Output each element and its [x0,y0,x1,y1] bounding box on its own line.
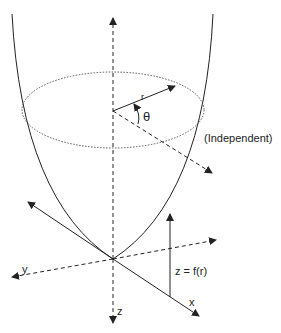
z-axis-label: z [117,306,123,317]
independent-label: (Independent) [204,133,273,144]
paraboloid-diagram: r θ (Independent) y x z z = f(r) [0,0,281,333]
r-arrow [113,86,175,111]
independent-line [113,111,212,173]
x-axis-negative [28,202,113,259]
y-axis-positive [113,240,216,259]
r-label: r [141,93,144,102]
x-axis-label: x [189,297,195,308]
function-label: z = f(r) [175,266,207,277]
diagram-canvas [0,0,281,333]
theta-arc [134,104,139,124]
y-axis-label: y [22,264,28,275]
theta-label: θ [143,110,150,123]
